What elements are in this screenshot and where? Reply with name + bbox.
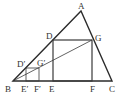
label-c: C (109, 84, 115, 94)
geometry-diagram: A B C D E F G D′ E′ F′ G′ (0, 0, 123, 106)
triangle-abc (13, 11, 112, 81)
label-d: D (46, 31, 53, 41)
label-f: F (90, 84, 95, 94)
square-defg (53, 40, 92, 81)
square-d1e1f1g1 (26, 68, 39, 81)
label-g-prime: G′ (37, 58, 45, 68)
label-a: A (78, 1, 85, 11)
label-e-prime: E′ (21, 84, 28, 94)
label-g: G (95, 33, 102, 43)
label-e: E (49, 84, 55, 94)
label-f-prime: F′ (34, 84, 41, 94)
label-d-prime: D′ (17, 59, 25, 69)
label-b: B (5, 84, 11, 94)
